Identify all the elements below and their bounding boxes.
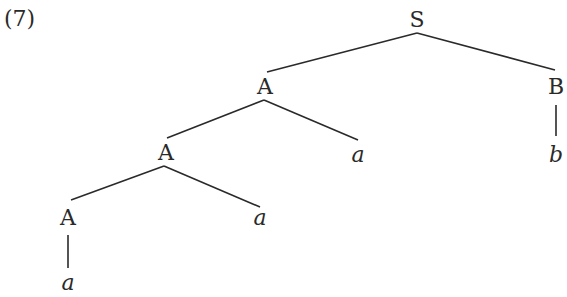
edge-A1-a1	[264, 100, 358, 140]
node-A2: A	[158, 142, 174, 164]
node-a1: a	[351, 144, 364, 166]
edge-A1-A2	[167, 100, 264, 138]
edge-S-A1	[267, 33, 417, 72]
edge-A2-A3	[71, 166, 164, 200]
node-a2: a	[253, 207, 266, 229]
node-B: B	[548, 76, 564, 98]
edge-S-B	[417, 33, 555, 70]
node-a3: a	[61, 272, 74, 294]
tree-edges	[0, 0, 567, 297]
node-A3: A	[60, 207, 76, 229]
node-b: b	[549, 144, 563, 166]
node-A1: A	[257, 76, 273, 98]
node-S: S	[409, 9, 424, 31]
edge-A2-a2	[164, 166, 260, 207]
